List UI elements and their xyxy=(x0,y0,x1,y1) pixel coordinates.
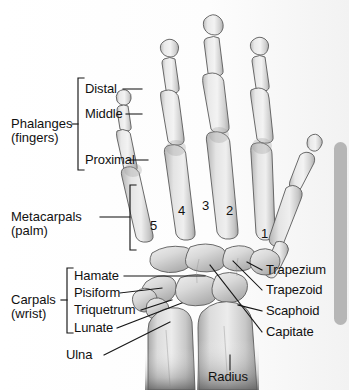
capitate-bone-top xyxy=(185,244,226,272)
digit-number-5: 5 xyxy=(150,218,157,233)
group-label-carpals: Carpals (wrist) xyxy=(11,293,56,321)
digit-number-3: 3 xyxy=(202,198,209,213)
group-label-phalanges: Phalanges (fingers) xyxy=(11,117,72,145)
scaphoid-bone xyxy=(212,273,248,303)
group-label-phalanges-line2: (fingers) xyxy=(11,131,72,145)
label-lunate: Lunate xyxy=(74,321,113,335)
label-scaphoid: Scaphoid xyxy=(266,304,319,318)
vertical-scrollbar-thumb[interactable] xyxy=(334,142,347,325)
label-proximal: Proximal xyxy=(85,153,135,167)
group-label-metacarpals: Metacarpals (palm) xyxy=(11,210,82,238)
label-radius: Radius xyxy=(208,370,248,384)
label-capitate: Capitate xyxy=(266,325,314,339)
label-ulna: Ulna xyxy=(66,348,92,362)
digit-number-2: 2 xyxy=(226,203,233,218)
label-triquetrum: Triquetrum xyxy=(74,303,135,317)
digit-number-1: 1 xyxy=(261,226,268,241)
label-hamate: Hamate xyxy=(74,269,119,283)
label-middle: Middle xyxy=(85,107,123,121)
group-label-carpals-line1: Carpals xyxy=(11,293,56,307)
label-trapezium: Trapezium xyxy=(266,263,326,277)
group-label-metacarpals-line2: (palm) xyxy=(11,224,82,238)
group-label-carpals-line2: (wrist) xyxy=(11,307,56,321)
group-label-phalanges-line1: Phalanges xyxy=(11,117,72,131)
label-pisiform: Pisiform xyxy=(74,286,120,300)
group-label-metacarpals-line1: Metacarpals xyxy=(11,210,82,224)
digit-number-4: 4 xyxy=(178,203,185,218)
label-trapezoid: Trapezoid xyxy=(266,283,322,297)
label-distal: Distal xyxy=(85,82,117,96)
